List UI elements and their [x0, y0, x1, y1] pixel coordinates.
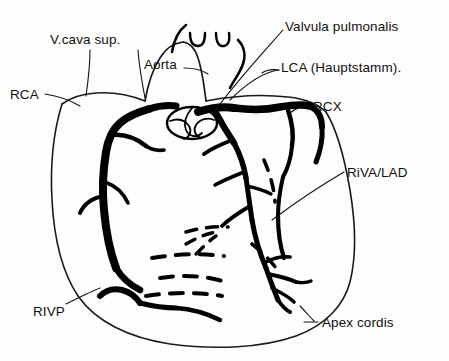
- leader-apex: [300, 306, 314, 321]
- right-coronary-artery-vessel: [80, 106, 176, 290]
- vessel-stumps-icon: [190, 33, 229, 46]
- leader-vcava-left: [86, 50, 90, 96]
- label-valvula-pulmonalis: Valvula pulmonalis: [285, 20, 398, 34]
- label-rca: RCA: [10, 88, 39, 102]
- posterior-hidden-vessel-segments: [146, 254, 226, 296]
- heart-anatomy-diagram: V.cava sup. Aorta Valvula pulmonalis LCA…: [0, 0, 449, 361]
- label-riva-lad: RiVA/LAD: [347, 166, 408, 180]
- left-anterior-descending-artery-vessel: [204, 113, 271, 268]
- label-superior-vena-cava: V.cava sup.: [50, 33, 120, 47]
- label-lca-hauptstamm: LCA (Hauptstamm).: [281, 61, 401, 75]
- heart-diagram-illustration: [0, 0, 449, 361]
- label-apex-cordis: Apex cordis: [322, 316, 394, 330]
- pulmonary-trunk-outline: [230, 40, 244, 88]
- label-aorta: Aorta: [144, 58, 177, 72]
- label-rcx: RCX: [313, 100, 342, 114]
- label-rivp: RIVP: [33, 305, 65, 319]
- posterior-hidden-vessel-segments-apical: [186, 232, 216, 254]
- leader-aorta: [184, 68, 208, 74]
